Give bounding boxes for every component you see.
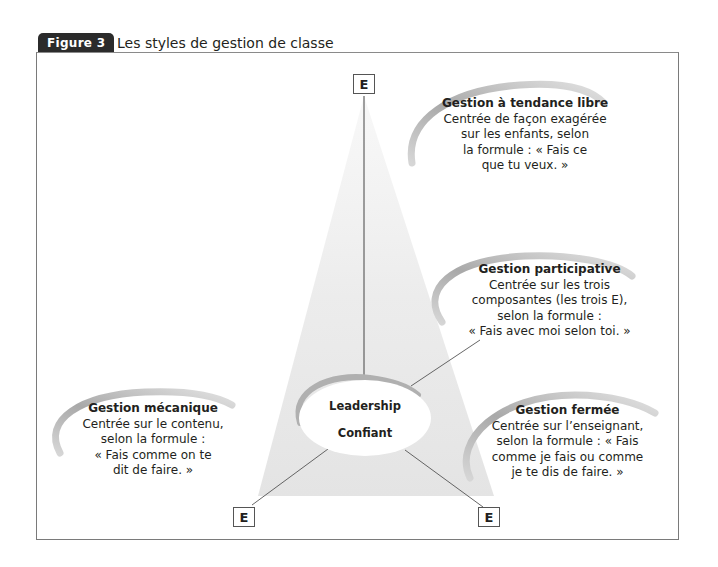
style-line: comme je fais ou comme	[480, 450, 655, 466]
e-box-top: E	[353, 74, 375, 94]
style-line: je te dis de faire. »	[480, 465, 655, 481]
style-participative: Gestion participative Centrée sur les tr…	[462, 262, 637, 340]
style-line: sur les enfants, selon	[430, 127, 620, 143]
style-title: Gestion mécanique	[73, 401, 233, 417]
e-box-bottom-right: E	[478, 507, 500, 527]
style-line: « Fais comme on te	[73, 448, 233, 464]
style-line: « Fais avec moi selon toi. »	[462, 324, 637, 340]
style-line: Centrée sur le contenu,	[73, 417, 233, 433]
style-line: selon la formule :	[462, 309, 637, 325]
style-line: que tu veux. »	[430, 158, 620, 174]
style-line: Centrée de façon exagérée	[430, 112, 620, 128]
style-line: selon la formule : « Fais	[480, 434, 655, 450]
e-box-bottom-left: E	[233, 507, 255, 527]
style-fermee: Gestion fermée Centrée sur l’enseignant,…	[480, 403, 655, 481]
style-title: Gestion participative	[462, 262, 637, 278]
center-label: Leadership Confiant	[310, 399, 420, 440]
style-line: Centrée sur l’enseignant,	[480, 419, 655, 435]
style-line: selon la formule :	[73, 432, 233, 448]
style-libre: Gestion à tendance libre Centrée de faço…	[430, 96, 620, 174]
center-label-line1: Leadership	[310, 399, 420, 413]
style-line: la formule : « Fais ce	[430, 143, 620, 159]
center-label-line2: Confiant	[310, 426, 420, 440]
style-line: dit de faire. »	[73, 463, 233, 479]
style-title: Gestion à tendance libre	[430, 96, 620, 112]
style-line: Centrée sur les trois	[462, 278, 637, 294]
style-line: composantes (les trois E),	[462, 293, 637, 309]
style-title: Gestion fermée	[480, 403, 655, 419]
style-mecanique: Gestion mécanique Centrée sur le contenu…	[73, 401, 233, 479]
